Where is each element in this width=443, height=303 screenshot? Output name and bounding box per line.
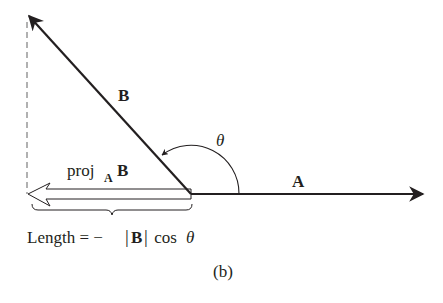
formula-vector: B [131,228,142,247]
angle-arc [162,145,239,194]
proj-subscript: A [104,171,113,185]
length-brace [32,204,192,215]
projection-label: proj A B [67,161,128,185]
theta-label: θ [216,131,224,150]
formula-bar-left: | [125,226,129,247]
vector-a-label: A [292,172,305,191]
formula-prefix: Length = − [27,228,103,247]
projection-arrow [28,183,191,206]
proj-text: proj [67,161,94,180]
formula-bar-right: | [144,226,148,247]
vector-projection-diagram: B A θ proj A B Length = − | B | cos θ (b… [0,0,443,303]
formula-theta: θ [186,228,194,247]
vector-b-arrow [29,16,191,194]
formula-cos: cos [150,228,181,247]
length-formula: Length = − | B | cos θ [27,226,194,247]
figure-caption: (b) [213,262,233,281]
vector-b-label: B [118,86,129,105]
proj-vector: B [117,161,128,180]
